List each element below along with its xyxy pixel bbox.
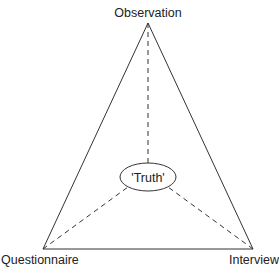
edge-questionnaire-truth [43, 187, 128, 249]
label-truth: 'Truth' [131, 171, 164, 185]
edge-observation-interview [148, 23, 253, 249]
edge-observation-questionnaire [43, 23, 148, 249]
triangulation-diagram: Observation 'Truth' Questionnaire Interv… [0, 0, 279, 276]
label-observation: Observation [114, 6, 181, 20]
label-interview: Interview [229, 253, 279, 267]
edge-interview-truth [168, 187, 253, 249]
label-questionnaire: Questionnaire [1, 253, 79, 267]
